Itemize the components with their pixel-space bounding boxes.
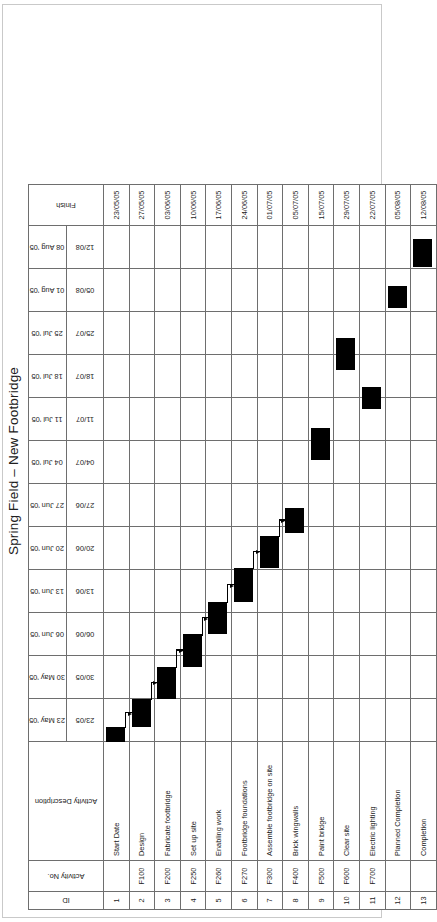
- cell-week-6: [411, 484, 437, 527]
- cell-activity-no: F600: [334, 861, 360, 892]
- cell-finish: 29/07/05: [334, 185, 360, 226]
- cell-activity-description: Start Date: [104, 742, 130, 861]
- cell-week-4: [129, 570, 155, 613]
- cell-week-1: [257, 699, 283, 742]
- cell-week-5: [385, 527, 411, 570]
- cell-week-4: [283, 570, 309, 613]
- cell-week-8: [283, 398, 309, 441]
- cell-week-10: [385, 312, 411, 355]
- cell-week-11: [206, 269, 232, 312]
- cell-week-5: [283, 527, 309, 570]
- week-short: 05/08: [76, 286, 95, 294]
- cell-finish: 10/06/05: [180, 185, 206, 226]
- header-week-6: 27 Jun '0527/06: [29, 484, 104, 527]
- cell-week-7: [180, 441, 206, 484]
- cell-id: 3: [155, 892, 181, 910]
- chart-title: Spring Field – New Footbridge: [0, 0, 26, 922]
- cell-week-1: [180, 699, 206, 742]
- cell-week-11: [308, 269, 334, 312]
- week-short: 12/08: [76, 243, 95, 251]
- cell-week-2: [129, 656, 155, 699]
- cell-week-10: [308, 312, 334, 355]
- cell-week-3: [283, 613, 309, 656]
- cell-finish: 24/06/05: [231, 185, 257, 226]
- week-short: 23/05: [76, 716, 95, 724]
- cell-week-11: [180, 269, 206, 312]
- cell-week-11: [257, 269, 283, 312]
- cell-week-8: [257, 398, 283, 441]
- table-row: 12Planned Completion05/08/05: [385, 185, 411, 910]
- cell-id: 2: [129, 892, 155, 910]
- week-label: 04 Jul '05: [32, 458, 63, 466]
- cell-week-9: [257, 355, 283, 398]
- cell-week-4: [257, 570, 283, 613]
- cell-id: 4: [180, 892, 206, 910]
- cell-week-9: [231, 355, 257, 398]
- cell-week-9: [308, 355, 334, 398]
- cell-week-2: [206, 656, 232, 699]
- week-short: 25/07: [76, 329, 95, 337]
- cell-week-8: [359, 398, 385, 441]
- cell-week-6: [155, 484, 181, 527]
- cell-activity-no: F100: [129, 861, 155, 892]
- header-activity-description: Activity Description: [29, 742, 104, 861]
- cell-activity-no: F250: [180, 861, 206, 892]
- cell-week-3: [206, 613, 232, 656]
- cell-week-3: [257, 613, 283, 656]
- week-label: 30 May '05: [29, 673, 65, 681]
- cell-week-7: [283, 441, 309, 484]
- header-week-7: 04 Jul '0504/07: [29, 441, 104, 484]
- cell-activity-no: F300: [257, 861, 283, 892]
- cell-week-8: [180, 398, 206, 441]
- cell-week-11: [283, 269, 309, 312]
- cell-week-11: [155, 269, 181, 312]
- cell-week-8: [231, 398, 257, 441]
- cell-id: 6: [231, 892, 257, 910]
- week-label: 18 Jul '05: [32, 372, 63, 380]
- table-body: 1Start Date23/05/052F100Design27/05/053F…: [104, 185, 437, 910]
- cell-week-5: [257, 527, 283, 570]
- cell-id: 13: [411, 892, 437, 910]
- cell-activity-description: Footbridge foundations: [231, 742, 257, 861]
- cell-id: 10: [334, 892, 360, 910]
- cell-week-9: [206, 355, 232, 398]
- cell-week-1: [231, 699, 257, 742]
- cell-week-12: [411, 226, 437, 269]
- table-row: 3F200Fabricate footbridge03/06/05: [155, 185, 181, 910]
- cell-week-10: [334, 312, 360, 355]
- cell-week-7: [359, 441, 385, 484]
- cell-finish: 05/08/05: [385, 185, 411, 226]
- cell-week-7: [206, 441, 232, 484]
- week-label: 25 Jul '05: [32, 329, 63, 337]
- header-row: ID Activity No. Activity Description 23 …: [29, 185, 104, 910]
- cell-week-6: [129, 484, 155, 527]
- cell-finish: 27/05/05: [129, 185, 155, 226]
- table-row: 8F400Brick wingwalls05/07/05: [283, 185, 309, 910]
- cell-week-3: [129, 613, 155, 656]
- cell-week-3: [308, 613, 334, 656]
- cell-week-3: [104, 613, 130, 656]
- cell-week-7: [334, 441, 360, 484]
- cell-week-2: [180, 656, 206, 699]
- cell-week-6: [334, 484, 360, 527]
- cell-id: 8: [283, 892, 309, 910]
- cell-activity-description: Planned Completion: [385, 742, 411, 861]
- cell-activity-description: Clear site: [334, 742, 360, 861]
- cell-finish: 17/06/05: [206, 185, 232, 226]
- cell-week-5: [206, 527, 232, 570]
- cell-week-1: [411, 699, 437, 742]
- cell-week-12: [385, 226, 411, 269]
- cell-week-7: [257, 441, 283, 484]
- cell-week-6: [308, 484, 334, 527]
- cell-week-9: [385, 355, 411, 398]
- cell-activity-no: [385, 861, 411, 892]
- week-short: 11/07: [76, 415, 94, 423]
- cell-week-4: [385, 570, 411, 613]
- cell-week-10: [180, 312, 206, 355]
- cell-week-3: [411, 613, 437, 656]
- cell-week-2: [231, 656, 257, 699]
- cell-week-2: [257, 656, 283, 699]
- cell-week-10: [155, 312, 181, 355]
- cell-week-12: [129, 226, 155, 269]
- cell-finish: 01/07/05: [257, 185, 283, 226]
